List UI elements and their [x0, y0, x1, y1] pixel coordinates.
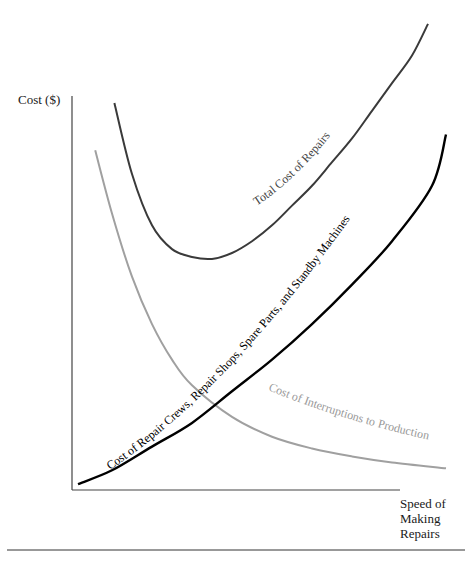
- repair-curve-label: Cost of Repair Crews, Repair Shops, Spar…: [104, 212, 353, 473]
- curve-total-cost: [114, 24, 428, 259]
- total-curve-label: Total Cost of Repairs: [251, 129, 334, 209]
- interrupt-curve-label: Cost of Interruptions to Production: [267, 380, 431, 443]
- chart-plot: Total Cost of Repairs Cost of Repair Cre…: [0, 0, 472, 563]
